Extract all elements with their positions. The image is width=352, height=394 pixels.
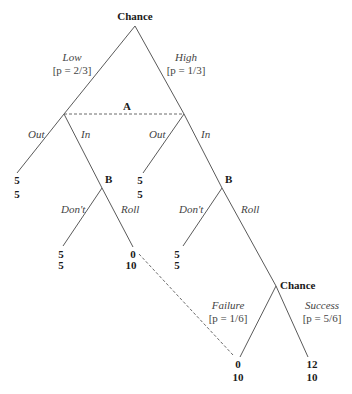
success-label: Success — [305, 299, 339, 311]
svg-text:5: 5 — [58, 259, 64, 271]
svg-text:10: 10 — [307, 371, 319, 383]
in-left-label: In — [80, 128, 91, 140]
b-right-label: B — [225, 173, 233, 185]
failure-prob: [p = 1/6] — [209, 312, 248, 324]
svg-text:5: 5 — [14, 188, 20, 200]
failure-label: Failure — [211, 299, 245, 311]
edge-dont-right — [183, 188, 222, 246]
edge-out-left — [17, 114, 64, 173]
edge-dont-left — [63, 188, 102, 246]
game-tree-diagram: Chance A B B Chance Low [p = 2/3] High [… — [0, 0, 352, 394]
success-prob: [p = 5/6] — [303, 312, 342, 324]
svg-text:5: 5 — [137, 174, 143, 186]
out-left-label: Out — [28, 128, 45, 140]
dont-left-label: Don't — [60, 203, 86, 215]
edge-out-right — [143, 114, 184, 173]
high-prob: [p = 1/3] — [167, 64, 206, 76]
out-right-label: Out — [149, 128, 166, 140]
edge-in-left — [64, 114, 102, 188]
payoff-low-in-roll: 0 10 — [126, 248, 138, 271]
roll-right-label: Roll — [240, 203, 259, 215]
payoff-high-in-roll-success: 12 10 — [307, 358, 319, 383]
svg-text:10: 10 — [126, 259, 138, 271]
b-left-label: B — [105, 173, 113, 185]
edge-roll-left — [102, 188, 133, 247]
dont-right-label: Don't — [178, 203, 204, 215]
payoff-high-in-roll-failure: 0 10 — [233, 358, 245, 383]
payoff-low-in-dont: 5 5 — [58, 248, 64, 271]
svg-text:12: 12 — [307, 358, 319, 370]
roll-left-label: Roll — [120, 203, 139, 215]
svg-text:5: 5 — [14, 174, 20, 186]
payoff-high-in-dont: 5 5 — [174, 248, 180, 271]
in-right-label: In — [200, 128, 211, 140]
svg-text:10: 10 — [233, 371, 245, 383]
info-set-a-label: A — [123, 100, 131, 112]
high-label: High — [174, 51, 198, 63]
edge-in-right — [184, 114, 222, 188]
low-label: Low — [62, 51, 83, 63]
low-prob: [p = 2/3] — [53, 64, 92, 76]
root-chance-label: Chance — [117, 10, 153, 22]
svg-text:5: 5 — [174, 259, 180, 271]
payoff-low-out: 5 5 — [14, 174, 20, 200]
svg-text:0: 0 — [235, 358, 241, 370]
chance2-label: Chance — [280, 279, 316, 291]
svg-text:5: 5 — [137, 188, 143, 200]
payoff-high-out: 5 5 — [137, 174, 143, 200]
